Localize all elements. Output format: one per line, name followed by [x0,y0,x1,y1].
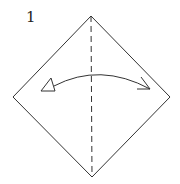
unfold-arrowhead-icon [41,78,55,91]
origami-diagram [0,0,180,184]
fold-arrowhead-icon [137,77,150,89]
valley-fold-line [91,16,92,177]
fold-arrow-arc [54,75,150,89]
